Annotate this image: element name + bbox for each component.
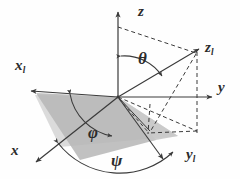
origin-point (117, 96, 120, 99)
axis-label-y: y (218, 80, 225, 95)
angle-label-phi: φ (88, 124, 98, 141)
dashed-z-to-zl (118, 27, 196, 53)
angle-label-psi: ψ (111, 152, 122, 169)
axis-label-z: z (138, 4, 144, 19)
euler-angle-figure: z y x zl yl xl θ φ ψ (0, 0, 240, 179)
axis-label-yl: yl (186, 147, 195, 162)
angle-label-theta: θ (138, 50, 147, 67)
axis-label-zl: zl (205, 40, 213, 55)
axis-label-xl: xl (15, 58, 25, 73)
axis-label-x: x (11, 143, 19, 158)
